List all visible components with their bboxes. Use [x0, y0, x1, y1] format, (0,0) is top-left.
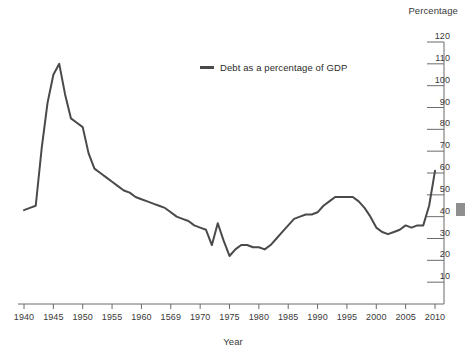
- data-series-group: [24, 64, 435, 256]
- axis-lines: [18, 42, 444, 304]
- chart-figure: Percentage 102030405060708090100110120 1…: [0, 0, 466, 356]
- y-tick-label-50: 50: [426, 184, 450, 194]
- y-tick-label-10: 10: [426, 271, 450, 281]
- page-edge-marker: [456, 203, 465, 216]
- legend-line-swatch: [200, 66, 214, 69]
- y-tick-label-90: 90: [426, 97, 450, 107]
- chart-legend: Debt as a percentage of GDP: [200, 62, 347, 73]
- y-tick-label-80: 80: [426, 118, 450, 128]
- legend-label: Debt as a percentage of GDP: [220, 62, 347, 73]
- y-tick-label-20: 20: [426, 249, 450, 259]
- y-tick-label-120: 120: [426, 31, 450, 41]
- x-axis-title: Year: [0, 336, 466, 347]
- x-axis-ticks: [24, 304, 435, 309]
- line-chart-plot: [0, 0, 466, 356]
- y-tick-label-40: 40: [426, 206, 450, 216]
- series-line-0: [24, 64, 435, 256]
- y-tick-label-100: 100: [426, 75, 450, 85]
- y-tick-label-60: 60: [426, 162, 450, 172]
- x-tick-label-2010: 2010: [418, 312, 452, 322]
- y-tick-label-70: 70: [426, 140, 450, 150]
- y-tick-label-30: 30: [426, 228, 450, 238]
- y-tick-label-110: 110: [426, 53, 450, 63]
- y-axis-title: Percentage: [408, 5, 458, 16]
